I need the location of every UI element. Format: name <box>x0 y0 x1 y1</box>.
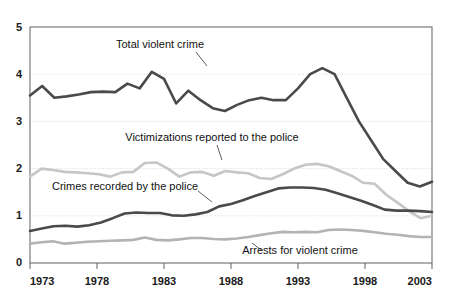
series-label-arrests-violent-crime: Arrests for violent crime <box>242 244 358 256</box>
x-axis-label-1988: 1988 <box>219 275 243 287</box>
series-label-crimes-recorded: Crimes recorded by the police <box>52 180 198 192</box>
y-axis-label-3: 3 <box>16 115 22 127</box>
y-axis-label-2: 2 <box>16 162 22 174</box>
x-axis-label-1973: 1973 <box>30 275 54 287</box>
x-axis-label-1978: 1978 <box>85 275 109 287</box>
y-axis-label-4: 4 <box>16 68 23 80</box>
chart-background <box>0 0 457 300</box>
x-axis-label-1998: 1998 <box>353 275 377 287</box>
line-chart: 5 4 3 2 1 0 1973 1978 1983 1988 1993 199… <box>0 0 457 300</box>
x-axis-label-1993: 1993 <box>286 275 310 287</box>
series-label-victimizations-reported: Victimizations reported to the police <box>125 131 298 143</box>
x-axis-label-1983: 1983 <box>152 275 176 287</box>
series-label-total-violent-crime: Total violent crime <box>116 38 204 50</box>
y-axis-label-1: 1 <box>16 209 22 221</box>
x-axis-labels: 1973 1978 1983 1988 1993 1998 2003 <box>30 275 432 287</box>
y-axis-label-0: 0 <box>16 256 22 268</box>
y-axis-label-5: 5 <box>16 21 22 33</box>
chart-container: 5 4 3 2 1 0 1973 1978 1983 1988 1993 199… <box>0 0 457 300</box>
x-axis-label-2003: 2003 <box>408 275 432 287</box>
